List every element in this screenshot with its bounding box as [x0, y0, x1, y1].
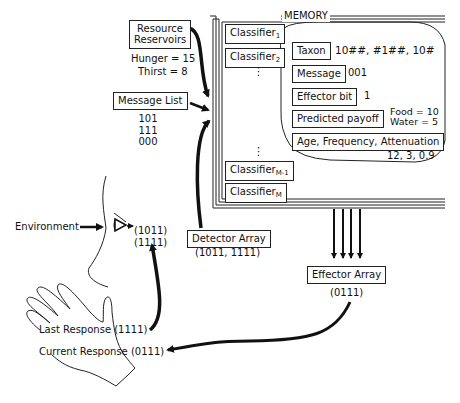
face-profile [88, 176, 108, 287]
classifier-m[interactable]: ClassifierM [225, 183, 287, 203]
effector-bit-label-box: Effector bit [292, 88, 357, 106]
payoff-water: Water = 5 [390, 117, 438, 127]
current-response: Current Response (0111) [39, 347, 164, 358]
memory-title: MEMORY [282, 11, 330, 22]
memory-to-effector-arrows [334, 209, 360, 258]
effector-array-box: Effector Array [307, 266, 386, 284]
age-frequency-attenuation-label-box: Age, Frequency, Attenuation [292, 133, 444, 151]
classifier-ellipsis-bottom: ⋮ [253, 146, 264, 158]
detector-to-memory-arrow [197, 121, 209, 228]
effector-to-hand-arrow [168, 302, 350, 350]
last-response: Last Response (1111) [39, 325, 147, 336]
resource-reservoirs-label-2: Reservoirs [134, 35, 186, 45]
classifier-1[interactable]: Classifier1 [225, 24, 285, 44]
classifier-label: Classifier [230, 164, 276, 175]
message-list-label: Message List [118, 95, 183, 106]
taxon-value: 10##, #1##, 10# [335, 45, 435, 56]
message-item: 101 [136, 113, 160, 125]
age-frequency-attenuation-label: Age, Frequency, Attenuation [297, 136, 439, 147]
sensor-input-2: (1111) [134, 238, 167, 249]
classifier-m-minus-1[interactable]: ClassifierM-1 [225, 161, 294, 181]
effector-bit-label: Effector bit [297, 91, 352, 102]
taxon-label-box: Taxon [292, 42, 331, 60]
effector-array-label: Effector Array [312, 269, 381, 280]
message-list-to-memory-arrow [190, 103, 208, 110]
thirst-value: Thirst = 8 [138, 67, 188, 78]
effector-array-value: (0111) [330, 288, 363, 299]
last-response-to-sensor-arrow [150, 245, 160, 330]
detector-array-value: (1011, 1111) [195, 248, 260, 259]
classifier-ellipsis-top: ⋮ [253, 66, 264, 78]
eye-icon [114, 213, 127, 231]
classifier-index: 1 [276, 32, 280, 40]
predicted-payoff-label: Predicted payoff [297, 113, 379, 124]
resource-reservoirs-label-1: Resource [134, 24, 186, 34]
classifier-label: Classifier [230, 186, 276, 197]
hunger-value: Hunger = 15 [131, 54, 195, 65]
message-list-values: 101 111 000 [136, 113, 160, 148]
taxon-label: Taxon [297, 45, 326, 56]
classifier-index: 2 [276, 56, 280, 64]
resource-reservoirs-box: Resource Reservoirs [129, 20, 191, 49]
message-label-box: Message [292, 65, 346, 83]
classifier-index: M [276, 191, 282, 199]
message-list-box: Message List [113, 92, 188, 110]
sensor-input-1: (1011) [134, 226, 167, 237]
classifier-label: Classifier [230, 51, 276, 62]
detector-array-label: Detector Array [192, 233, 266, 244]
age-frequency-attenuation-value: 12, 3, 0.9 [387, 151, 435, 162]
classifier-label: Classifier [230, 27, 276, 38]
message-value: 001 [348, 68, 367, 79]
detector-array-box: Detector Array [187, 230, 271, 248]
environment-label: Environment [15, 222, 79, 233]
classifier-index: M-1 [276, 169, 289, 177]
message-item: 000 [136, 136, 160, 148]
message-item: 111 [136, 125, 160, 137]
predicted-payoff-label-box: Predicted payoff [292, 110, 384, 128]
effector-bit-value: 1 [364, 91, 370, 102]
message-label: Message [297, 68, 341, 79]
